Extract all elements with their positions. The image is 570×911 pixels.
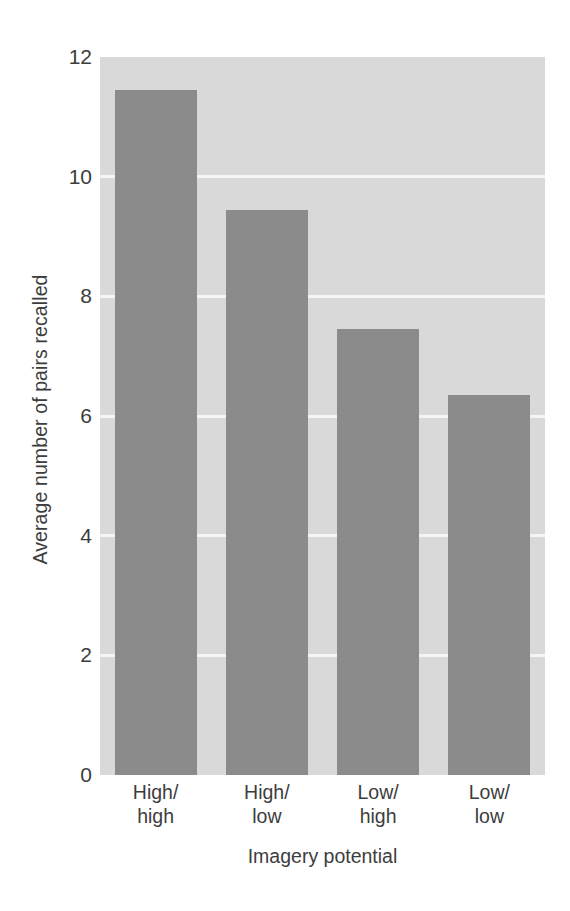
bar-chart-figure: Average number of pairs recalled 0246810… <box>0 0 570 911</box>
y-tick-label: 12 <box>0 45 92 69</box>
y-tick-label: 6 <box>0 404 92 428</box>
bar <box>115 90 197 775</box>
x-tick-label: Low/low <box>434 780 545 828</box>
bar <box>337 329 419 775</box>
x-tick-label: High/high <box>100 780 211 828</box>
x-tick-label: Low/high <box>323 780 434 828</box>
y-axis-tick-labels: 024681012 <box>0 0 92 911</box>
x-axis-title: Imagery potential <box>100 845 545 868</box>
y-tick-label: 0 <box>0 763 92 787</box>
y-tick-label: 8 <box>0 284 92 308</box>
plot-area <box>100 57 545 775</box>
bar <box>448 395 530 775</box>
bar <box>226 210 308 775</box>
bar-series <box>100 57 545 775</box>
x-tick-label: High/low <box>211 780 322 828</box>
y-tick-label: 4 <box>0 524 92 548</box>
y-tick-label: 10 <box>0 165 92 189</box>
y-tick-label: 2 <box>0 643 92 667</box>
x-axis-tick-labels: High/highHigh/lowLow/highLow/low <box>100 780 545 842</box>
